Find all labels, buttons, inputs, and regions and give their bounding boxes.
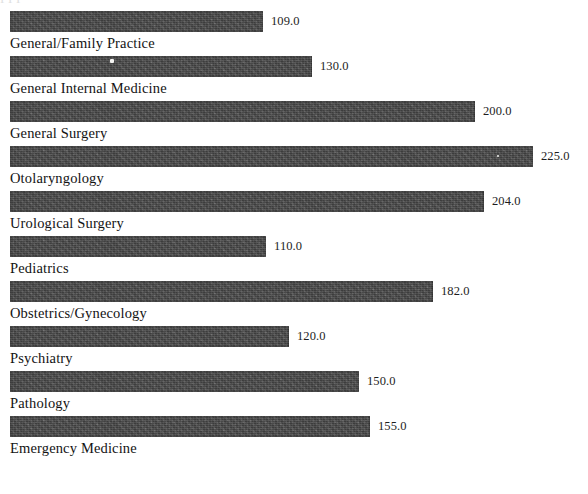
bar-value-label: 120.0 — [297, 329, 326, 344]
bar-chart-row: 200.0General Surgery — [0, 101, 588, 146]
bar-row-track: 120.0 — [0, 326, 588, 347]
bar-value-label: 182.0 — [441, 284, 470, 299]
bar-category-label: General/Family Practice — [10, 34, 155, 53]
bar — [10, 101, 475, 122]
bar-category-label: Obstetrics/Gynecology — [10, 304, 147, 323]
bar — [10, 191, 484, 212]
bar-chart-row: 204.0Urological Surgery — [0, 191, 588, 236]
bar-value-label: 110.0 — [274, 239, 302, 254]
bar — [10, 56, 312, 77]
bar-chart-row: 109.0General/Family Practice — [0, 11, 588, 56]
bar-value-label: 155.0 — [378, 419, 407, 434]
bar-category-label: Otolaryngology — [10, 169, 104, 188]
bar-category-label: General Surgery — [10, 124, 107, 143]
bar-category-label: Emergency Medicine — [10, 439, 137, 458]
bar — [10, 146, 533, 167]
bar-row-track: 200.0 — [0, 101, 588, 122]
bar-chart-row: 225.0Otolaryngology — [0, 146, 588, 191]
horizontal-bar-chart: 109.0General/Family Practice130.0General… — [0, 0, 588, 494]
bar — [10, 11, 263, 32]
bar — [10, 281, 433, 302]
bar-row-track: 225.0 — [0, 146, 588, 167]
bar-value-label: 225.0 — [541, 149, 570, 164]
bar-row-track: 155.0 — [0, 416, 588, 437]
bar-chart-row: 155.0Emergency Medicine — [0, 416, 588, 461]
bar-chart-row: 182.0Obstetrics/Gynecology — [0, 281, 588, 326]
bar-row-track: 150.0 — [0, 371, 588, 392]
bar — [10, 326, 289, 347]
bar-chart-row: 130.0General Internal Medicine — [0, 56, 588, 101]
bar-category-label: Pathology — [10, 394, 70, 413]
bar-value-label: 150.0 — [367, 374, 396, 389]
bar-category-label: General Internal Medicine — [10, 79, 167, 98]
bar-value-label: 109.0 — [271, 14, 300, 29]
bar — [10, 371, 359, 392]
bar-chart-row: 110.0Pediatrics — [0, 236, 588, 281]
bar-category-label: Urological Surgery — [10, 214, 124, 233]
bar-row-track: 109.0 — [0, 11, 588, 32]
bar — [10, 236, 266, 257]
bar-category-label: Pediatrics — [10, 259, 69, 278]
bar-value-label: 204.0 — [492, 194, 521, 209]
bar-chart-row: 150.0Pathology — [0, 371, 588, 416]
bar-row-track: 204.0 — [0, 191, 588, 212]
bar-value-label: 130.0 — [320, 59, 349, 74]
bar — [10, 416, 370, 437]
bar-row-track: 130.0 — [0, 56, 588, 77]
bar-category-label: Psychiatry — [10, 349, 73, 368]
bar-chart-row: 120.0Psychiatry — [0, 326, 588, 371]
bar-value-label: 200.0 — [483, 104, 512, 119]
bar-row-track: 110.0 — [0, 236, 588, 257]
bar-row-track: 182.0 — [0, 281, 588, 302]
